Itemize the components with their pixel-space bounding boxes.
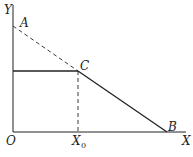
budget-constraint-diagram: Y X O A C B X 0 bbox=[0, 0, 193, 157]
x0-subscript: 0 bbox=[81, 141, 86, 150]
x0-label: X bbox=[71, 134, 81, 148]
x-axis-label: X bbox=[181, 134, 191, 148]
dashed-line-ac bbox=[13, 26, 78, 71]
point-a-label: A bbox=[19, 16, 29, 30]
origin-label: O bbox=[6, 134, 16, 148]
y-axis-label: Y bbox=[4, 3, 13, 17]
line-cb bbox=[78, 71, 167, 132]
point-c-label: C bbox=[80, 59, 89, 73]
point-b-label: B bbox=[167, 120, 177, 134]
